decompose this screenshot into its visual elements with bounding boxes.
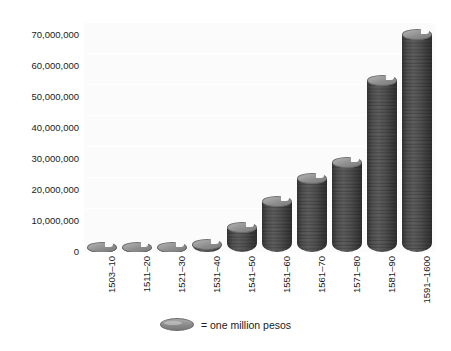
bar-1531-40[interactable] — [192, 239, 222, 252]
coin-stack — [192, 239, 222, 252]
x-tick-label-0: 1503–10 — [107, 256, 117, 293]
coin-stack — [122, 241, 152, 252]
coin-stack — [227, 222, 257, 252]
x-tick-label-2: 1521–30 — [177, 256, 187, 293]
y-tick-label-40m: 40,000,000 — [0, 123, 79, 133]
coin-stack — [157, 241, 187, 252]
bar-1581-90[interactable] — [367, 75, 397, 252]
bar-1551-60[interactable] — [262, 196, 292, 252]
legend-label: = one million pesos — [201, 319, 291, 331]
x-tick-label-4: 1541–50 — [247, 256, 257, 293]
coin-stack-body — [367, 80, 397, 252]
bar-1561-70[interactable] — [297, 173, 327, 252]
coin-top-face — [192, 239, 222, 250]
coin-stack — [262, 196, 292, 252]
coin-notch — [351, 157, 359, 162]
coin-notch — [141, 242, 149, 247]
bar-1541-50[interactable] — [227, 222, 257, 252]
bar-1521-30[interactable] — [157, 241, 187, 252]
y-tick-label-30m: 30,000,000 — [0, 154, 79, 164]
legend: = one million pesos — [0, 318, 451, 331]
coin-stack — [297, 173, 327, 252]
coin-notch — [246, 222, 254, 227]
coin-stack — [87, 241, 117, 252]
coin-top-face — [332, 157, 362, 168]
y-tick-label-0: 0 — [0, 247, 79, 257]
bar-1511-20[interactable] — [122, 241, 152, 252]
coin-notch — [281, 196, 289, 201]
bar-1503-10[interactable] — [87, 241, 117, 252]
coin-stack-body — [262, 202, 292, 252]
x-tick-label-3: 1531–40 — [212, 256, 222, 293]
y-tick-label-50m: 50,000,000 — [0, 92, 79, 102]
y-tick-label-60m: 60,000,000 — [0, 61, 79, 71]
x-tick-label-5: 1551–60 — [282, 256, 292, 293]
bar-1591-1600[interactable] — [402, 29, 432, 252]
coin-stack-body — [297, 179, 327, 252]
coin-notch — [211, 239, 219, 244]
coin-notch — [421, 29, 429, 34]
y-tick-label-10m: 10,000,000 — [0, 216, 79, 226]
y-axis: 0 10,000,000 20,000,000 30,000,000 40,00… — [0, 0, 79, 280]
coin-stack-body — [402, 34, 432, 252]
coin-top-face — [87, 242, 117, 253]
coin-disc-icon — [160, 318, 194, 331]
coin-top-face — [157, 242, 187, 253]
coin-stack-bar-chart: 0 10,000,000 20,000,000 30,000,000 40,00… — [0, 0, 451, 351]
gridline-60m — [84, 53, 435, 54]
coin-stack — [332, 157, 362, 252]
coin-stack — [367, 75, 397, 252]
x-tick-label-1: 1511–20 — [142, 256, 152, 292]
coin-notch — [105, 242, 113, 247]
x-tick-label-6: 1561–70 — [317, 256, 327, 293]
coin-stack-body — [332, 162, 362, 252]
bar-1571-80[interactable] — [332, 157, 362, 252]
x-tick-label-7: 1571–80 — [352, 256, 362, 293]
coin-notch — [386, 75, 394, 80]
coin-stack — [402, 29, 432, 252]
coin-top-face — [122, 242, 152, 253]
coin-notch — [176, 242, 184, 247]
x-tick-label-9: 1591–1600 — [422, 256, 432, 304]
y-tick-label-70m: 70,000,000 — [0, 30, 79, 40]
coin-top-face — [402, 29, 432, 40]
gridline-70m — [84, 22, 435, 23]
plot-area — [84, 22, 435, 252]
coin-notch — [316, 173, 324, 178]
coin-top-face — [367, 75, 397, 86]
x-tick-label-8: 1581–90 — [387, 256, 397, 293]
y-tick-label-20m: 20,000,000 — [0, 185, 79, 195]
